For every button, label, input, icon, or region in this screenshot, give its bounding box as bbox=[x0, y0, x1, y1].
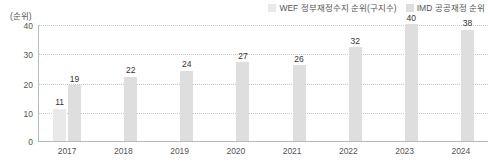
bar-2021-imd[interactable] bbox=[293, 65, 306, 141]
x-tick-label-2023: 2023 bbox=[377, 146, 433, 157]
bar-slot-2021-imd: 26 bbox=[293, 25, 306, 141]
bar-slot-2018-wef bbox=[109, 25, 122, 141]
y-tick-label-30: 30 bbox=[24, 50, 33, 60]
bar-value-2018-imd: 22 bbox=[126, 65, 135, 75]
bar-slot-2020-wef bbox=[221, 25, 234, 141]
bar-slot-2022-imd: 32 bbox=[349, 25, 362, 141]
y-tick-label-20: 20 bbox=[24, 80, 33, 90]
bar-value-2021-imd: 26 bbox=[294, 54, 303, 64]
legend-label-imd: IMD 공공재정 순위 bbox=[417, 3, 485, 13]
chart-legend: WEF 정부재정수지 순위(구지수) IMD 공공재정 순위 bbox=[268, 2, 485, 14]
y-tick-label-0: 0 bbox=[28, 137, 33, 147]
bar-groups: 11 19 22 bbox=[39, 25, 488, 141]
bar-value-2023-imd: 40 bbox=[407, 13, 416, 23]
bar-group-2020: 27 bbox=[207, 25, 263, 141]
bar-group-2022: 32 bbox=[320, 25, 376, 141]
bar-group-2017: 11 19 bbox=[39, 25, 95, 141]
bar-slot-2017-imd: 19 bbox=[68, 25, 81, 141]
x-axis-labels: 2017 2018 2019 2020 2021 2022 2023 2024 bbox=[39, 146, 489, 157]
bar-value-2017-imd: 19 bbox=[70, 74, 79, 84]
bar-value-2022-imd: 32 bbox=[350, 36, 359, 46]
bar-slot-2020-imd: 27 bbox=[236, 25, 249, 141]
bar-value-2019-imd: 24 bbox=[182, 59, 191, 69]
bar-slot-2024-wef bbox=[446, 25, 459, 141]
bar-2019-imd[interactable] bbox=[180, 71, 193, 141]
y-tick-label-10: 10 bbox=[24, 109, 33, 119]
x-tick-label-2024: 2024 bbox=[433, 146, 489, 157]
bar-2017-imd[interactable] bbox=[68, 85, 81, 141]
bar-slot-2017-wef: 11 bbox=[53, 25, 66, 141]
legend-label-wef: WEF 정부재정수지 순위(구지수) bbox=[279, 3, 396, 13]
legend-swatch-icon-wef bbox=[268, 4, 276, 12]
bar-slot-2023-imd: 40 bbox=[405, 25, 418, 141]
legend-item-imd: IMD 공공재정 순위 bbox=[406, 3, 485, 13]
x-tick-label-2020: 2020 bbox=[208, 146, 264, 157]
bar-value-2017-wef: 11 bbox=[55, 97, 64, 107]
bar-group-2018: 22 bbox=[95, 25, 151, 141]
y-axis-unit-label: (순위) bbox=[10, 11, 32, 21]
legend-swatch-icon-imd bbox=[406, 4, 414, 12]
x-axis-line bbox=[38, 141, 488, 142]
bar-group-2024: 38 bbox=[432, 25, 488, 141]
bar-group-2021: 26 bbox=[264, 25, 320, 141]
bar-2017-wef[interactable] bbox=[53, 109, 66, 141]
x-tick-label-2017: 2017 bbox=[39, 146, 95, 157]
bar-slot-2022-wef bbox=[334, 25, 347, 141]
bar-group-2023: 40 bbox=[376, 25, 432, 141]
bar-slot-2024-imd: 38 bbox=[461, 25, 474, 141]
plot-area: 40 30 20 10 0 11 19 bbox=[38, 25, 488, 142]
bar-slot-2023-wef bbox=[390, 25, 403, 141]
bar-group-2019: 24 bbox=[151, 25, 207, 141]
bar-2020-imd[interactable] bbox=[236, 62, 249, 141]
bar-slot-2019-wef bbox=[165, 25, 178, 141]
y-tick-label-40: 40 bbox=[24, 21, 33, 31]
bar-value-2020-imd: 27 bbox=[238, 51, 247, 61]
x-tick-label-2022: 2022 bbox=[320, 146, 376, 157]
bar-slot-2018-imd: 22 bbox=[124, 25, 137, 141]
x-tick-label-2018: 2018 bbox=[95, 146, 151, 157]
x-tick-label-2021: 2021 bbox=[264, 146, 320, 157]
bar-chart: WEF 정부재정수지 순위(구지수) IMD 공공재정 순위 (순위) 40 3… bbox=[0, 0, 491, 163]
legend-item-wef: WEF 정부재정수지 순위(구지수) bbox=[268, 3, 396, 13]
bar-slot-2021-wef bbox=[278, 25, 291, 141]
bar-2022-imd[interactable] bbox=[349, 47, 362, 141]
bar-value-2024-imd: 38 bbox=[463, 18, 472, 28]
x-tick-label-2019: 2019 bbox=[152, 146, 208, 157]
bar-2018-imd[interactable] bbox=[124, 77, 137, 141]
bar-2023-imd[interactable] bbox=[405, 24, 418, 141]
bar-slot-2019-imd: 24 bbox=[180, 25, 193, 141]
bar-2024-imd[interactable] bbox=[461, 30, 474, 141]
